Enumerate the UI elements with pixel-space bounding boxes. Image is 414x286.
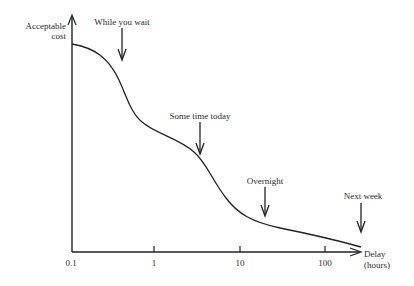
x-tick-label-10: 10: [236, 258, 245, 268]
x-tick-label-100: 100: [318, 258, 332, 268]
annotation-overnight: Overnight: [247, 176, 284, 186]
annotation-next-week: Next week: [344, 191, 383, 201]
y-axis-label-line1: Acceptable: [18, 21, 66, 31]
x-axis-label-line1: Delay: [364, 249, 386, 259]
chart-canvas: [0, 0, 414, 286]
annotation-some-time-today: Some time today: [170, 111, 231, 121]
x-tick-label-1: 1: [152, 258, 157, 268]
cost-delay-curve: [72, 44, 361, 247]
y-axis-label-line2: cost: [18, 31, 66, 41]
annotation-while-you-wait: While you wait: [94, 17, 150, 27]
x-axis-label-line2: (hours): [364, 260, 390, 270]
x-tick-label-0.1: 0.1: [65, 258, 76, 268]
